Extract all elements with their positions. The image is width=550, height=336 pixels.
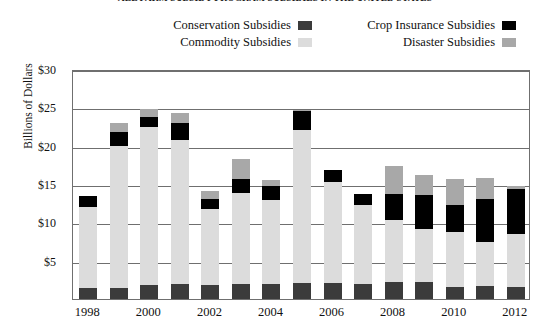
crop-insurance-swatch-icon: [502, 21, 516, 30]
bar-group[interactable]: [232, 69, 250, 299]
bar-segment-crop-insurance[interactable]: [415, 195, 433, 230]
bar-segment-disaster[interactable]: [232, 159, 250, 179]
x-tick-label: 2002: [179, 306, 239, 319]
bar-segment-disaster[interactable]: [110, 123, 128, 132]
y-tick-label: $5: [12, 256, 56, 268]
legend-label-conservation: Conservation Subsidies: [173, 19, 291, 32]
bar-segment-crop-insurance[interactable]: [385, 194, 403, 220]
bar-segment-crop-insurance[interactable]: [476, 199, 494, 242]
legend-item-conservation[interactable]: Conservation Subsidies: [118, 19, 314, 32]
bar-segment-conservation[interactable]: [507, 287, 525, 299]
bar-segment-commodity[interactable]: [415, 229, 433, 282]
bar-segment-commodity[interactable]: [507, 234, 525, 287]
bar-segment-crop-insurance[interactable]: [232, 179, 250, 193]
legend-item-commodity[interactable]: Commodity Subsidies: [118, 36, 314, 49]
bar-segment-crop-insurance[interactable]: [79, 196, 97, 208]
disaster-swatch-icon: [502, 38, 516, 47]
x-tick-label: 2008: [363, 306, 423, 319]
bar-segment-disaster[interactable]: [262, 180, 280, 185]
bar-segment-disaster[interactable]: [293, 110, 311, 112]
bar-segment-crop-insurance[interactable]: [354, 194, 372, 205]
y-tick-label: $15: [12, 179, 56, 191]
legend-label-crop-insurance: Crop Insurance Subsidies: [367, 19, 495, 32]
bar-group[interactable]: [446, 69, 464, 299]
bar-segment-crop-insurance[interactable]: [140, 117, 158, 127]
chart-legend: Conservation Subsidies Crop Insurance Su…: [118, 17, 518, 51]
legend-item-crop-insurance[interactable]: Crop Insurance Subsidies: [314, 19, 518, 32]
bar-segment-conservation[interactable]: [79, 288, 97, 300]
bar-group[interactable]: [415, 69, 433, 299]
bar-segment-conservation[interactable]: [171, 284, 189, 299]
chart-title: ALL FARM SUBSIDY PROGRAM SUBSIDIES IN TH…: [0, 0, 550, 3]
bar-segment-crop-insurance[interactable]: [201, 199, 219, 209]
bar-group[interactable]: [140, 69, 158, 299]
bar-group[interactable]: [79, 69, 97, 299]
bar-segment-disaster[interactable]: [201, 191, 219, 199]
y-tick-label: $30: [12, 64, 56, 76]
y-tick-label: $20: [12, 141, 56, 153]
bar-segment-disaster[interactable]: [476, 178, 494, 199]
bar-segment-commodity[interactable]: [232, 193, 250, 284]
bar-group[interactable]: [354, 69, 372, 299]
bar-group[interactable]: [110, 69, 128, 299]
bar-segment-conservation[interactable]: [415, 282, 433, 299]
bar-segment-commodity[interactable]: [171, 140, 189, 283]
x-tick-label: 2006: [302, 306, 362, 319]
bar-segment-commodity[interactable]: [79, 207, 97, 288]
bar-segment-crop-insurance[interactable]: [262, 186, 280, 201]
bar-segment-crop-insurance[interactable]: [110, 132, 128, 146]
bar-segment-commodity[interactable]: [262, 200, 280, 284]
plot-area: [72, 70, 530, 300]
bar-segment-conservation[interactable]: [354, 284, 372, 299]
bar-segment-crop-insurance[interactable]: [293, 111, 311, 130]
bar-group[interactable]: [293, 69, 311, 299]
bar-group[interactable]: [262, 69, 280, 299]
commodity-swatch-icon: [298, 38, 312, 47]
bar-segment-disaster[interactable]: [446, 179, 464, 205]
bar-segment-commodity[interactable]: [110, 146, 128, 288]
x-tick-label: 1998: [57, 306, 117, 319]
bar-segment-conservation[interactable]: [385, 282, 403, 299]
bar-segment-conservation[interactable]: [324, 283, 342, 299]
legend-item-disaster[interactable]: Disaster Subsidies: [314, 36, 518, 49]
bar-segment-disaster[interactable]: [171, 113, 189, 122]
bar-segment-crop-insurance[interactable]: [324, 170, 342, 182]
bar-group[interactable]: [385, 69, 403, 299]
bar-group[interactable]: [324, 69, 342, 299]
bar-series-layer: [73, 71, 529, 299]
bar-segment-crop-insurance[interactable]: [507, 189, 525, 234]
legend-label-commodity: Commodity Subsidies: [180, 36, 291, 49]
bar-group[interactable]: [476, 69, 494, 299]
bar-segment-conservation[interactable]: [293, 283, 311, 299]
conservation-swatch-icon: [298, 21, 312, 30]
x-tick-label: 2004: [240, 306, 300, 319]
bar-group[interactable]: [507, 69, 525, 299]
bar-segment-commodity[interactable]: [354, 205, 372, 284]
bar-segment-disaster[interactable]: [385, 166, 403, 194]
bar-segment-commodity[interactable]: [446, 232, 464, 286]
bar-segment-conservation[interactable]: [110, 288, 128, 300]
bar-segment-conservation[interactable]: [201, 285, 219, 299]
bar-segment-conservation[interactable]: [140, 285, 158, 299]
x-tick-label: 2010: [424, 306, 484, 319]
x-tick-label: 2012: [485, 306, 545, 319]
bar-segment-conservation[interactable]: [476, 286, 494, 299]
bar-segment-commodity[interactable]: [385, 220, 403, 282]
y-tick-label: $25: [12, 102, 56, 114]
bar-segment-conservation[interactable]: [446, 287, 464, 299]
bar-segment-conservation[interactable]: [262, 284, 280, 299]
bar-segment-commodity[interactable]: [324, 182, 342, 283]
bar-group[interactable]: [171, 69, 189, 299]
bar-group[interactable]: [201, 69, 219, 299]
bar-segment-disaster[interactable]: [140, 109, 158, 117]
bar-segment-crop-insurance[interactable]: [171, 123, 189, 141]
bar-segment-commodity[interactable]: [476, 242, 494, 286]
bar-segment-commodity[interactable]: [293, 130, 311, 283]
legend-label-disaster: Disaster Subsidies: [403, 36, 495, 49]
bar-segment-disaster[interactable]: [415, 175, 433, 195]
bar-segment-commodity[interactable]: [140, 127, 158, 285]
bar-segment-conservation[interactable]: [232, 284, 250, 299]
bar-segment-disaster[interactable]: [507, 186, 525, 188]
bar-segment-commodity[interactable]: [201, 209, 219, 285]
bar-segment-crop-insurance[interactable]: [446, 205, 464, 233]
